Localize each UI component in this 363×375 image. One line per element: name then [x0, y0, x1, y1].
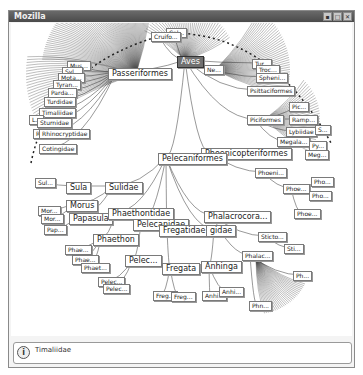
tree-node-phaet[interactable]: Phaet... — [81, 263, 110, 273]
close-button[interactable]: ✕ — [343, 12, 352, 21]
tree-node-megala[interactable]: Megala... — [277, 137, 310, 147]
tree-node-stictο[interactable]: Sticto... — [258, 232, 287, 242]
tree-node-pho2[interactable]: Pho... — [309, 191, 332, 201]
maximize-button[interactable]: □ — [333, 12, 342, 21]
tree-node-anhi2[interactable]: Anhi... — [219, 287, 244, 297]
tree-node-phalacrocoridae[interactable]: Phalacrocora... — [204, 211, 271, 223]
tree-node-sti[interactable]: Sti... — [284, 244, 304, 254]
tree-node-papasula[interactable]: Papasula — [69, 213, 113, 225]
tree-node-morus[interactable]: Morus — [66, 200, 98, 212]
browser-window: Mozilla ▪ □ ✕ AvesNe...Cal...Cruifo...Pa… — [8, 10, 355, 368]
tree-node-phoe1[interactable]: Phoe... — [283, 184, 310, 194]
info-icon: i — [17, 346, 30, 359]
tree-node-psittaciformes[interactable]: Psittaciformes — [247, 86, 295, 96]
window-controls: ▪ □ ✕ — [323, 12, 352, 21]
tree-node-s[interactable]: S... — [315, 125, 331, 135]
tree-node-sulidae[interactable]: Sulidae — [105, 182, 143, 194]
tree-node-phoeni[interactable]: Phoeni... — [255, 168, 287, 178]
tree-node-mor2[interactable]: Mor... — [41, 214, 64, 224]
tree-node-spheni[interactable]: Spheni... — [256, 73, 288, 83]
tree-node-phae1[interactable]: Phae... — [65, 245, 92, 255]
hyperbolic-tree-canvas[interactable]: AvesNe...Cal...Cruifo...PasseriformesMus… — [11, 23, 352, 336]
tree-node-ramp[interactable]: Ramp... — [289, 115, 318, 125]
tree-node-cruifo[interactable]: Cruifo... — [151, 32, 181, 42]
tree-node-sturnidae[interactable]: Sturnidae — [37, 118, 72, 128]
tree-node-lybiidae[interactable]: Lybiidae — [286, 127, 317, 137]
tree-node-gidae[interactable]: gidae — [206, 225, 236, 237]
tree-node-freg2[interactable]: Freg... — [171, 292, 196, 302]
tree-node-phoe2[interactable]: Phoe... — [294, 209, 321, 219]
tree-node-phalac[interactable]: Phalac... — [242, 251, 273, 261]
tree-node-pic[interactable]: Pic... — [289, 102, 309, 112]
tree-node-timaliidae[interactable]: Timaliidae — [39, 108, 76, 118]
title-bar[interactable]: Mozilla ▪ □ ✕ — [9, 11, 354, 22]
status-bar: i Timaliidae — [13, 342, 352, 364]
tree-node-pelecaniformes[interactable]: Pelecaniformes — [158, 153, 227, 165]
tree-node-pelec3[interactable]: Pelec... — [103, 284, 130, 294]
tree-node-pho1[interactable]: Pho... — [311, 177, 334, 187]
tree-node-pelec[interactable]: Pelec... — [125, 255, 162, 267]
tree-node-piciformes[interactable]: Piciformes — [247, 115, 284, 125]
tree-node-rhinocryptidae[interactable]: Rhinocryptidae — [39, 129, 90, 139]
tree-node-ne[interactable]: Ne... — [204, 65, 224, 75]
tree-node-anhinga[interactable]: Anhinga — [201, 261, 242, 273]
status-text: Timaliidae — [35, 346, 71, 354]
tree-node-turdidae[interactable]: Turdidae — [44, 97, 76, 107]
tree-node-passeriformes[interactable]: Passeriformes — [108, 68, 172, 80]
tree-node-fregatidae[interactable]: Fregatidae — [159, 225, 209, 237]
tree-node-fregata[interactable]: Fregata — [162, 263, 200, 275]
tree-node-cotingidae[interactable]: Cotingidae — [39, 144, 77, 154]
minimize-button[interactable]: ▪ — [323, 12, 332, 21]
tree-node-pap[interactable]: Pap... — [44, 225, 67, 235]
tree-node-meg[interactable]: Meg... — [305, 150, 329, 160]
tree-node-sula[interactable]: Sula — [66, 182, 91, 194]
window-title: Mozilla — [14, 11, 46, 22]
tree-node-phaethon[interactable]: Phaethon — [93, 234, 139, 246]
tree-node-sul[interactable]: Sul... — [35, 178, 56, 188]
tree-node-ph[interactable]: Ph... — [293, 271, 312, 281]
tree-node-aves[interactable]: Aves — [177, 56, 204, 68]
tree-node-phn[interactable]: Phn... — [249, 301, 272, 311]
